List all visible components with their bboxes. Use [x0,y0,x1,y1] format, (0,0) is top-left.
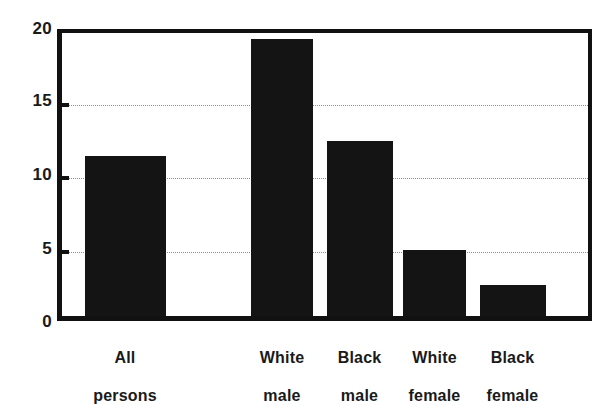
x-label-line-2: female [409,387,461,404]
x-label-line-2: male [341,387,378,404]
x-label-line-1: Black [491,349,535,366]
x-tick-label-black-female: Black female [463,330,562,406]
x-label-line-1: Black [338,349,382,366]
x-label-line-2: male [263,387,300,404]
x-label-line-2: persons [93,387,157,404]
x-label-line-1: White [260,349,305,366]
x-tick-label-all-persons: All persons [65,330,185,406]
x-label-line-1: All [114,349,135,366]
x-label-line-2: female [487,387,539,404]
x-label-line-1: White [412,349,457,366]
